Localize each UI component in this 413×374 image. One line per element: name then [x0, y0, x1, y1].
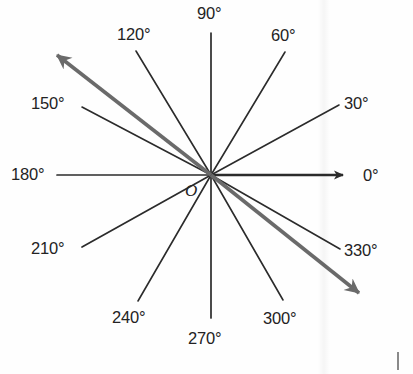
ray-line-240 [138, 175, 211, 301]
ray-label-90: 90° [197, 5, 221, 22]
ray-line-60 [211, 52, 285, 175]
bold-arrow-315 [211, 175, 359, 293]
angle-diagram-figure: 0° 30° 60° 90° 120° 150° 180° 210° 240° … [0, 0, 413, 374]
ray-label-330: 330° [344, 242, 377, 259]
ray-label-210: 210° [31, 240, 64, 257]
page-edge-tick [397, 352, 399, 370]
ray-line-300 [211, 175, 283, 300]
ray-line-30 [211, 105, 339, 175]
ray-label-60: 60° [271, 27, 295, 44]
ray-label-30: 30° [344, 95, 368, 112]
ray-label-240: 240° [112, 309, 145, 326]
ray-line-120 [136, 51, 211, 175]
origin-label: O [185, 182, 197, 199]
ray-label-120: 120° [117, 26, 150, 43]
ray-label-150: 150° [31, 95, 64, 112]
ray-line-150 [82, 107, 211, 175]
ray-label-180: 180° [11, 166, 44, 183]
ray-line-330 [211, 175, 340, 249]
ray-label-300: 300° [263, 310, 296, 327]
ray-label-270: 270° [188, 330, 221, 347]
ray-label-0: 0° [363, 167, 378, 184]
angle-diagram-canvas [0, 0, 413, 374]
bold-arrow-135 [57, 55, 211, 175]
